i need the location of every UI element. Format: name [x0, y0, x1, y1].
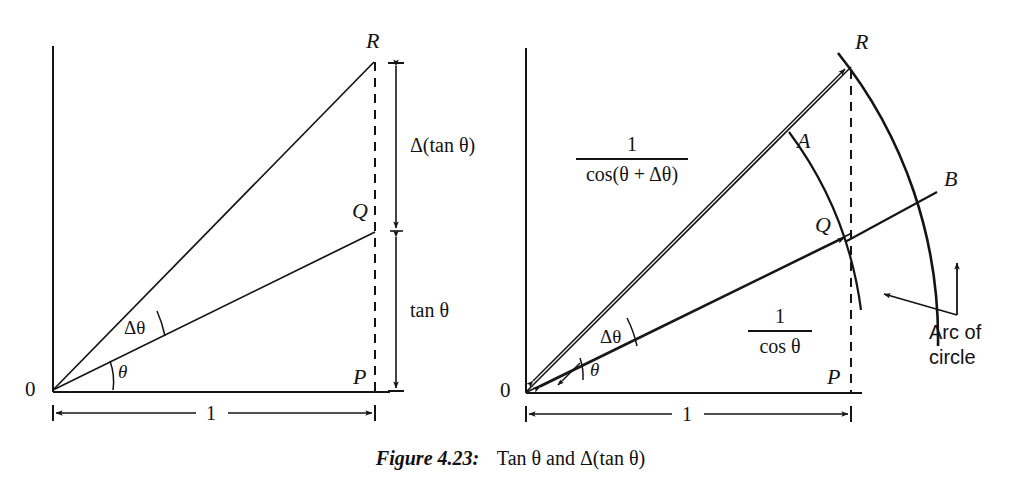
fraction-bar — [748, 330, 812, 332]
arc-of-circle-annotation-line1: Arc of — [929, 322, 981, 342]
left-diagram-group — [53, 46, 404, 421]
right-dim-label-unit: 1 — [682, 404, 692, 424]
right-length-label-sec-theta-plus-delta: 1 cos(θ + Δθ) — [576, 133, 688, 186]
right-point-label-P: P — [827, 366, 840, 388]
right-point-label-B: B — [944, 168, 957, 190]
figure-caption-text: Tan θ and Δ(tan θ) — [497, 447, 645, 469]
right-segment-QB — [845, 192, 937, 242]
right-angle-theta-arc — [580, 358, 583, 380]
left-point-label-P: P — [353, 366, 366, 388]
left-ray-OR — [53, 62, 374, 390]
fraction-bar — [576, 158, 688, 160]
left-angle-delta-theta-arc — [157, 311, 165, 336]
right-length-label-sec-theta: 1 cos θ — [748, 305, 812, 358]
figure-vector-drawing — [0, 0, 1021, 490]
left-ray-OQ — [53, 232, 375, 390]
right-point-label-R: R — [855, 31, 868, 53]
left-angle-label-delta-theta: Δθ — [124, 318, 145, 337]
right-theta-arrow — [558, 363, 580, 385]
left-dim-label-delta-tan-theta: Δ(tan θ) — [410, 135, 475, 155]
left-angle-theta-arc — [110, 361, 114, 390]
left-origin-label: 0 — [25, 379, 36, 400]
fraction-denominator: cos θ — [748, 334, 812, 358]
fraction-numerator: 1 — [748, 305, 812, 329]
fraction-denominator: cos(θ + Δθ) — [576, 162, 688, 186]
figure-caption-number: Figure 4.23: — [376, 447, 479, 469]
figure-4-23: 0 R Q P θ Δθ Δ(tan θ) tan θ 1 0 R A B Q … — [0, 0, 1021, 490]
arc-leader-branch — [884, 294, 957, 315]
arc-of-circle-annotation-line2: circle — [929, 347, 976, 367]
right-point-label-A: A — [797, 130, 810, 152]
figure-caption: Figure 4.23: Tan θ and Δ(tan θ) — [0, 447, 1021, 470]
left-angle-label-theta: θ — [118, 362, 127, 381]
fraction-numerator: 1 — [576, 133, 688, 157]
right-angle-label-delta-theta: Δθ — [600, 327, 621, 346]
left-point-label-Q: Q — [352, 200, 368, 222]
right-angle-label-theta: θ — [590, 360, 599, 379]
left-dim-label-unit: 1 — [206, 403, 216, 423]
left-dim-label-tan-theta: tan θ — [410, 300, 449, 320]
left-point-label-R: R — [366, 30, 379, 52]
right-origin-label: 0 — [500, 380, 511, 401]
right-point-label-Q: Q — [815, 214, 831, 236]
